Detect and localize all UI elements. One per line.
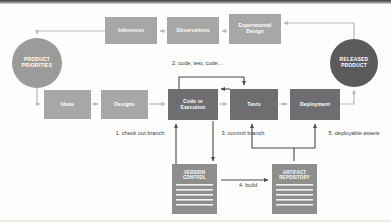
node-tests-shape [230, 89, 278, 120]
arrow-deployable-assets-to-tests [252, 124, 294, 161]
node-artifact-repository-shape [272, 164, 317, 214]
node-released-product-shape [330, 39, 378, 87]
node-product-priorities-shape [12, 38, 62, 88]
arrow-product-priorities-to-ideas [37, 88, 40, 104]
node-code-or-execution-shape [168, 89, 218, 120]
node-version-control-shape [172, 164, 217, 214]
diagram-canvas: Inferences Observations Experimental Des… [0, 0, 391, 222]
arrow-code-test-code-loop [179, 77, 244, 89]
node-experimental-design-shape [229, 14, 281, 44]
arrow-inferences-to-product-priorities [37, 31, 105, 34]
arrow-deployment-to-released-product [340, 90, 354, 104]
arrow-released-product-to-experimental-design [284, 23, 354, 39]
diagram-graphics [0, 0, 391, 222]
node-observations-shape [167, 17, 219, 44]
page-scan-bottom-edge [0, 219, 391, 222]
node-deployment-shape [290, 89, 340, 120]
node-ideas-shape [44, 90, 91, 119]
arrow-deployable-assets-to-deployment [294, 124, 315, 148]
node-designs-shape [101, 90, 148, 119]
node-inferences-shape [105, 17, 157, 44]
